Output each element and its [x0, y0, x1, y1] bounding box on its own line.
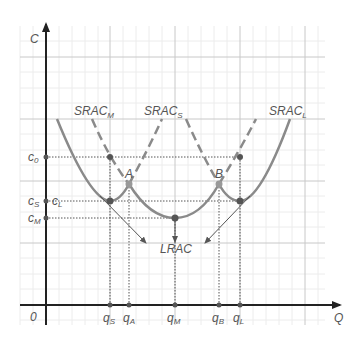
x-tick-qa: qA — [123, 311, 135, 326]
cost-curves-diagram: C Q 0 SRACM SRACS SRACL LRAC A B c0 cS c… — [0, 0, 360, 345]
srac-left-solid — [57, 119, 129, 201]
x-tick-qm: qM — [167, 311, 181, 326]
x-tick-qb: qB — [212, 311, 225, 326]
lrac-label: LRAC — [160, 242, 192, 256]
srac-s-label: SRACS — [144, 104, 183, 120]
srac-m-label: SRACM — [74, 104, 114, 120]
srac-l-dashed-left — [219, 119, 256, 184]
x-tick-ql: qL — [233, 311, 244, 326]
origin-label: 0 — [30, 310, 37, 324]
y-tick-cm: cM — [28, 211, 41, 226]
x-tick-qs: qS — [103, 311, 116, 326]
y-tick-c0: c0 — [28, 150, 39, 165]
srac-s-dashed-right — [129, 119, 162, 184]
minor-grid — [20, 26, 325, 325]
y-axis-label: C — [30, 32, 39, 46]
point-a-label: A — [124, 167, 133, 181]
srac-l-label: SRACL — [269, 104, 307, 120]
guide-lines — [46, 157, 240, 305]
point-b-label: B — [215, 167, 223, 181]
x-axis-label: Q — [334, 311, 343, 325]
